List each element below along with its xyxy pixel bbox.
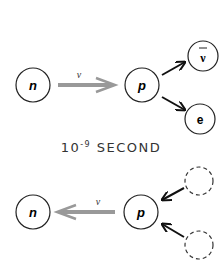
reverse-transition-arrow: v	[57, 196, 115, 219]
arrow-from-ghost1	[162, 188, 184, 200]
arrow-label-v: v	[77, 69, 82, 80]
proton-label-bottom: p	[136, 205, 145, 220]
ghost-particle-1	[185, 167, 213, 195]
neutron-node: n	[16, 68, 50, 102]
transition-arrow: v	[58, 69, 115, 92]
proton-label: p	[137, 78, 146, 93]
electron-node: e	[185, 104, 215, 134]
ghost-particle-2	[185, 231, 213, 259]
neutron-node-bottom: n	[16, 195, 50, 229]
arrow-to-electron	[162, 97, 185, 110]
arrow-to-antineutrino	[162, 62, 185, 75]
neutron-label-bottom: n	[29, 205, 37, 220]
caption-exponent: -9	[80, 140, 91, 149]
proton-node: p	[125, 68, 159, 102]
top-reaction: n v p ν e	[16, 41, 218, 134]
caption-base: 10	[61, 140, 81, 155]
caption-unit: SECOND	[97, 140, 162, 155]
time-caption: 10-9 SECOND	[0, 140, 222, 155]
arrow-label-v-bottom: v	[96, 196, 101, 207]
antineutrino-node: ν	[188, 41, 218, 71]
proton-node-bottom: p	[124, 195, 158, 229]
neutron-label: n	[29, 78, 37, 93]
beta-decay-diagram: n v p ν e n v	[0, 0, 222, 271]
electron-label: e	[197, 113, 204, 127]
arrow-from-ghost2	[162, 224, 184, 237]
bottom-reaction: n v p	[16, 167, 213, 259]
antineutrino-label: ν	[199, 51, 206, 65]
